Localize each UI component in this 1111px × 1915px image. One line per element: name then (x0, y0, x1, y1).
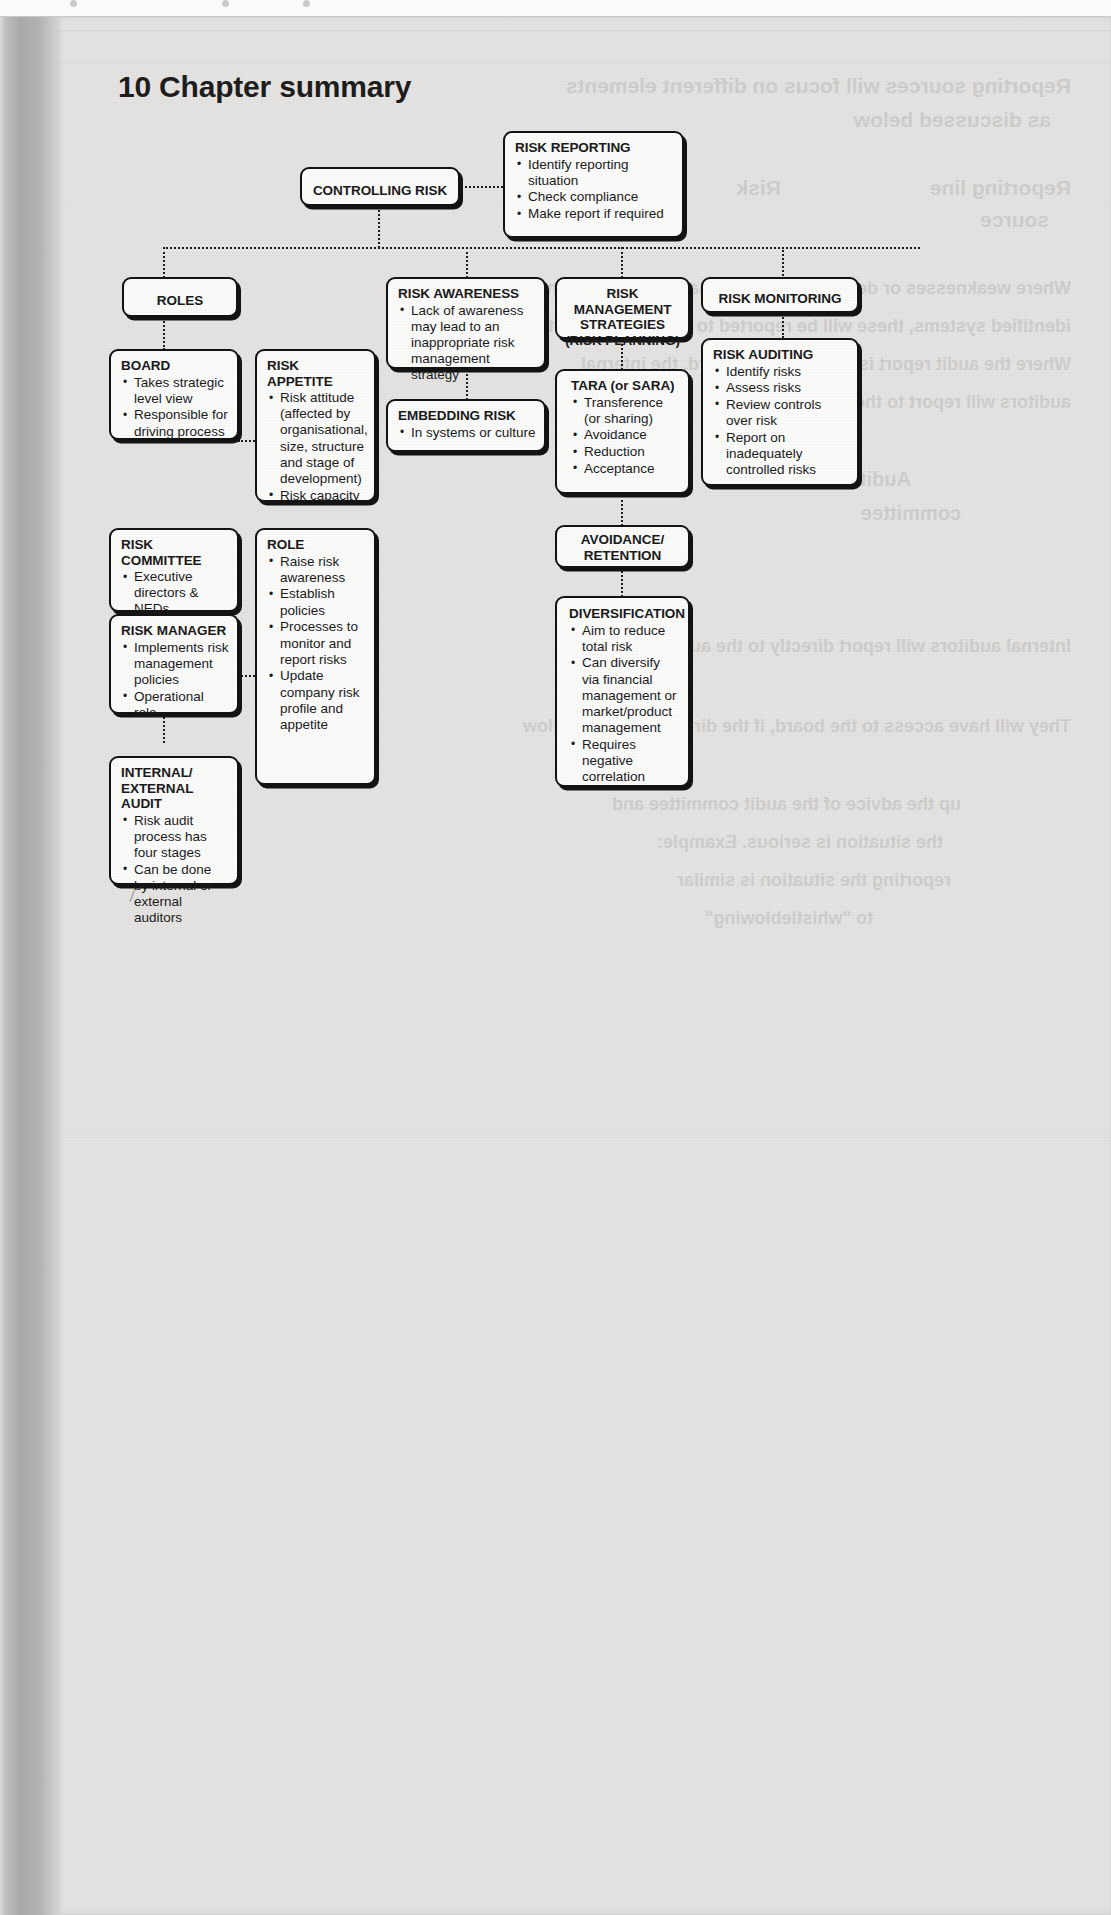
node-title: ROLE (267, 537, 366, 553)
node-avoidance-retention[interactable]: AVOIDANCE/ RETENTION (555, 525, 690, 568)
list-item: Aim to reduce total risk (582, 623, 680, 655)
node-title: BOARD (121, 358, 229, 374)
connector-main-bus (163, 247, 920, 249)
node-title: RISK REPORTING (515, 140, 674, 156)
node-roles[interactable]: ROLES (122, 277, 238, 317)
scanner-artifact-dot (222, 0, 229, 7)
list-item: Establish policies (280, 586, 366, 618)
connector-bus-to-risk-monitoring (782, 247, 784, 276)
list-item: Transference (or sharing) (584, 395, 680, 427)
list-item: Identify risks (726, 364, 849, 380)
list-item: In systems or culture (411, 425, 536, 441)
node-risk-manager-body: RISK MANAGER Implements risk management … (111, 616, 237, 728)
node-title: RISK COMMITTEE (121, 537, 229, 568)
connector-bus-to-roles (163, 247, 165, 278)
connector-bus-to-rms (621, 247, 623, 278)
list-item: Reduction (584, 444, 680, 460)
node-bullet-list: Identify reporting situation Check compl… (515, 157, 674, 223)
list-item: Raise risk awareness (280, 554, 366, 586)
list-item: Report on inadequately controlled risks (726, 430, 849, 479)
node-bullet-list: Risk attitude (affected by organisationa… (267, 390, 366, 504)
list-item: Responsible for driving process (134, 407, 229, 439)
node-title-line2: EXTERNAL AUDIT (121, 781, 229, 812)
node-risk-awareness[interactable]: RISK AWARENESS Lack of awareness may lea… (386, 277, 546, 369)
node-risk-management-strategies[interactable]: RISK MANAGEMENT STRATEGIES (RISK PLANNIN… (555, 277, 690, 339)
node-title-line1: AVOIDANCE/ (563, 532, 682, 548)
node-roles-body: ROLES (124, 279, 236, 323)
node-risk-committee[interactable]: RISK COMMITTEE Executive directors & NED… (109, 528, 239, 612)
node-title: RISK AWARENESS (398, 286, 536, 302)
scan-band (57, 1131, 1111, 1133)
node-internal-external-audit-body: INTERNAL/ EXTERNAL AUDIT Risk audit proc… (111, 758, 237, 933)
node-risk-reporting-body: RISK REPORTING Identify reporting situat… (505, 133, 682, 229)
node-tara[interactable]: TARA (or SARA) Transference (or sharing)… (555, 369, 690, 494)
node-bullet-list: In systems or culture (398, 425, 536, 441)
node-risk-reporting[interactable]: RISK REPORTING Identify reporting situat… (503, 131, 684, 238)
list-item: Risk capacity (280, 488, 366, 504)
node-risk-manager[interactable]: RISK MANAGER Implements risk management … (109, 614, 239, 714)
node-role-body: ROLE Raise risk awareness Establish poli… (257, 530, 374, 740)
node-title: RISK AUDITING (713, 347, 849, 363)
node-board[interactable]: BOARD Takes strategic level view Respons… (109, 349, 239, 440)
node-risk-awareness-body: RISK AWARENESS Lack of awareness may lea… (388, 279, 544, 391)
connector-avoidance-to-diversification (621, 567, 623, 597)
node-bullet-list: Executive directors & NEDs (121, 569, 229, 618)
list-item: Operational role (134, 689, 229, 721)
node-bullet-list: Takes strategic level view Responsible f… (121, 375, 229, 440)
list-item: Review controls over risk (726, 397, 849, 429)
list-item: Avoidance (584, 427, 680, 443)
node-avoidance-retention-body: AVOIDANCE/ RETENTION (557, 527, 688, 568)
scanner-top-strip (0, 0, 1111, 17)
node-role[interactable]: ROLE Raise risk awareness Establish poli… (255, 528, 376, 785)
list-item: Update company risk profile and appetite (280, 668, 366, 733)
list-item: Requires negative correlation (582, 737, 680, 786)
node-bullet-list: Risk audit process has four stages Can b… (121, 813, 229, 927)
node-bullet-list: Implements risk management policies Oper… (121, 640, 229, 722)
scan-band (57, 30, 1111, 32)
node-controlling-risk[interactable]: CONTROLLING RISK (300, 167, 460, 206)
node-risk-committee-body: RISK COMMITTEE Executive directors & NED… (111, 530, 237, 625)
node-board-body: BOARD Takes strategic level view Respons… (111, 351, 237, 447)
connector-controlling-to-reporting (461, 186, 503, 188)
node-risk-appetite-body: RISK APPETITE Risk attitude (affected by… (257, 351, 374, 511)
connector-bus-to-risk-awareness (466, 247, 468, 278)
node-bullet-list: Identify risks Assess risks Review contr… (713, 364, 849, 479)
node-embedding-risk-body: EMBEDDING RISK In systems or culture (388, 401, 544, 448)
node-title: RISK MANAGER (121, 623, 229, 639)
node-bullet-list: Lack of awareness may lead to an inappro… (398, 303, 536, 384)
list-item: Executive directors & NEDs (134, 569, 229, 618)
node-embedding-risk[interactable]: EMBEDDING RISK In systems or culture (386, 399, 546, 452)
list-item: Risk audit process has four stages (134, 813, 229, 862)
list-item: Identify reporting situation (528, 157, 674, 189)
list-item: Make report if required (528, 206, 674, 222)
node-title: RISK APPETITE (267, 358, 366, 389)
node-bullet-list: Transference (or sharing) Avoidance Redu… (571, 395, 680, 478)
node-diversification[interactable]: DIVERSIFICATION Aim to reduce total risk… (555, 596, 690, 787)
node-rms-body: RISK MANAGEMENT STRATEGIES (RISK PLANNIN… (557, 279, 688, 355)
list-item: Can diversify via financial management o… (582, 655, 680, 736)
node-title-line1: RISK MANAGEMENT (563, 286, 682, 317)
scan-band (57, 62, 1111, 65)
list-item: Takes strategic level view (134, 375, 229, 407)
node-title: CONTROLLING RISK (313, 183, 447, 199)
list-item: Acceptance (584, 461, 680, 477)
node-title: TARA (or SARA) (571, 378, 680, 394)
node-risk-monitoring-body: RISK MONITORING (703, 279, 857, 319)
node-title-line3: (RISK PLANNING) (563, 333, 682, 349)
book-spine-shadow (0, 16, 57, 1915)
node-title-line2: RETENTION (563, 548, 682, 564)
node-risk-monitoring[interactable]: RISK MONITORING (701, 277, 859, 313)
scanner-artifact-dot (303, 0, 310, 7)
node-title-line1: INTERNAL/ (121, 765, 229, 781)
page-title: 10 Chapter summary (118, 70, 411, 104)
node-bullet-list: Raise risk awareness Establish policies … (267, 554, 366, 734)
node-diversification-body: DIVERSIFICATION Aim to reduce total risk… (557, 598, 688, 793)
node-risk-auditing[interactable]: RISK AUDITING Identify risks Assess risk… (701, 338, 859, 486)
list-item: Lack of awareness may lead to an inappro… (411, 303, 536, 384)
node-internal-external-audit[interactable]: INTERNAL/ EXTERNAL AUDIT Risk audit proc… (109, 756, 239, 885)
node-risk-appetite[interactable]: RISK APPETITE Risk attitude (affected by… (255, 349, 376, 502)
node-title-line2: STRATEGIES (563, 317, 682, 333)
list-item: Risk attitude (affected by organisationa… (280, 390, 366, 487)
node-title: DIVERSIFICATION (569, 606, 680, 622)
list-item: Implements risk management policies (134, 640, 229, 689)
